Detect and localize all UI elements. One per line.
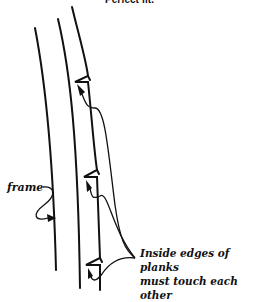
- note-leader-3: [90, 258, 135, 280]
- arrow-head: [86, 180, 92, 192]
- plank-note: Inside edges of planks must touch each o…: [140, 246, 259, 302]
- arrow-head: [77, 84, 85, 96]
- note-leader-2: [90, 188, 135, 258]
- plank-inner-line: [58, 19, 80, 288]
- plank-note-line1: Inside edges of planks: [140, 246, 259, 274]
- plank-outer-line: [72, 7, 100, 290]
- frame-line: [35, 28, 56, 270]
- arrow-head: [88, 268, 93, 279]
- frame-label: frame: [7, 181, 43, 194]
- plank-note-line2: must touch each other: [140, 274, 259, 302]
